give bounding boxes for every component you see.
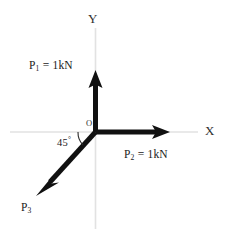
force-diagram: Y X O 45° P1 = 1kN P2 = 1kN P3 (0, 0, 232, 238)
angle-label-45: 45° (57, 138, 71, 149)
force-label-p1: P1 = 1kN (29, 60, 73, 72)
x-axis-label: X (205, 124, 215, 137)
force-p1-magnitude: 1kN (52, 59, 72, 71)
force-p1-symbol: P (29, 59, 36, 71)
y-axis-label: Y (88, 12, 98, 25)
vector-p2 (96, 125, 171, 139)
force-p1-subscript: 1 (36, 64, 40, 73)
angle-value: 45 (57, 137, 68, 148)
force-label-p2: P2 = 1kN (124, 149, 168, 161)
origin-label: O (86, 119, 92, 128)
force-p2-magnitude: 1kN (147, 148, 167, 160)
force-p2-symbol: P (124, 148, 131, 160)
force-p3-subscript: 3 (28, 206, 32, 215)
force-p2-subscript: 2 (131, 153, 135, 162)
force-p1-equals: = (40, 59, 53, 71)
degree-symbol: ° (68, 135, 71, 144)
force-p2-equals: = (135, 148, 148, 160)
force-p3-symbol: P (21, 201, 28, 213)
vector-graphic (0, 0, 232, 238)
force-label-p3: P3 (21, 202, 32, 214)
